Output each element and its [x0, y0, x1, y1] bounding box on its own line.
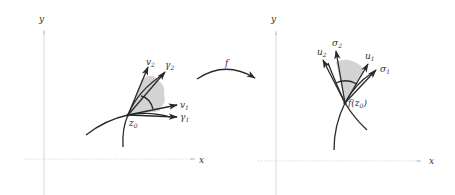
label-v2: v2	[146, 57, 155, 68]
vector-gamma1-arrow	[128, 115, 177, 117]
label-u2: u2	[317, 47, 327, 58]
x-axis-label: x	[199, 155, 204, 165]
map-arrow-icon	[197, 69, 255, 79]
x-axis-label: x	[429, 156, 434, 166]
y-axis-label: y	[38, 14, 45, 24]
point-z0	[126, 113, 129, 116]
label-sigma1: σ1	[380, 64, 390, 75]
map-label-f: f	[224, 58, 230, 68]
right-panel: x y f(z0) u2 σ2 u1 σ1	[258, 14, 434, 195]
label-v1: v1	[180, 100, 189, 111]
label-z0: z0	[128, 118, 138, 129]
label-sigma2: σ2	[332, 38, 342, 49]
label-f-z0: f(z0)	[347, 98, 367, 109]
conformal-map-diagram: x y z0 v2 γ2 v1 γ1 f x y	[0, 0, 455, 195]
map-f: f	[197, 58, 255, 79]
left-panel: x y z0 v2 γ2 v1 γ1	[24, 14, 204, 195]
y-axis-label: y	[270, 14, 277, 24]
point-f-z0	[343, 101, 346, 104]
label-gamma2: γ2	[165, 60, 174, 71]
label-u1: u1	[365, 51, 375, 62]
label-gamma1: γ1	[180, 112, 189, 123]
